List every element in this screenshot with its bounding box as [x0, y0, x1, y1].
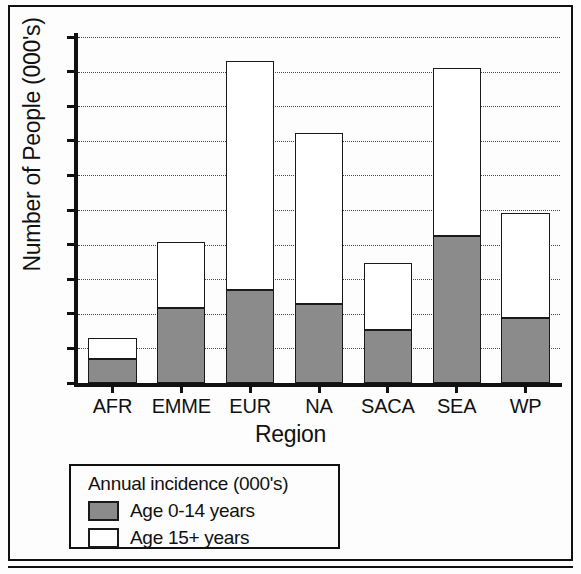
bar-segment-age-15-plus [501, 213, 549, 317]
x-axis-title: Region [0, 421, 581, 448]
bar-segment-age-0-14 [88, 359, 136, 383]
legend-swatch-white-icon [88, 528, 119, 548]
bar-afr [88, 37, 136, 383]
legend-item-age-0-14: Age 0-14 years [88, 499, 338, 524]
y-axis-tick [67, 105, 76, 108]
figure-bottom-rule [8, 566, 573, 568]
bar-na [295, 37, 343, 383]
x-axis-tick-label-afr: AFR [78, 396, 147, 416]
bar-wp [501, 37, 549, 383]
x-axis-tick-label-saca: SACA [353, 396, 422, 416]
figure-container: Number of People (000's) 051015202530354… [0, 0, 581, 574]
bar-saca [364, 37, 412, 383]
x-axis-tick [386, 384, 389, 393]
y-axis-tick [67, 312, 76, 315]
bar-segment-age-0-14 [364, 330, 412, 383]
plot-area [78, 37, 560, 383]
x-axis-tick [524, 384, 527, 393]
bar-segment-age-15-plus [364, 263, 412, 330]
y-axis-tick [67, 209, 76, 212]
x-axis-tick-label-na: NA [285, 396, 354, 416]
bar-segment-age-15-plus [433, 68, 481, 235]
x-axis-tick [111, 384, 114, 393]
x-axis-tick [455, 384, 458, 393]
bar-segment-age-15-plus [226, 61, 274, 290]
bar-segment-age-15-plus [157, 242, 205, 308]
legend-label-age-0-14: Age 0-14 years [130, 500, 255, 522]
bar-segment-age-0-14 [433, 236, 481, 383]
legend-swatch-gray-icon [88, 501, 119, 521]
x-axis-tick-label-eur: EUR [216, 396, 285, 416]
x-axis-tick [249, 384, 252, 393]
x-axis-tick-label-wp: WP [491, 396, 560, 416]
y-axis-tick [67, 139, 76, 142]
y-axis-tick [67, 278, 76, 281]
bar-segment-age-15-plus [295, 133, 343, 304]
legend-title: Annual incidence (000's) [88, 473, 338, 495]
y-axis-title: Number of People (000's) [19, 0, 46, 310]
legend-item-age-15-plus: Age 15+ years [88, 526, 338, 551]
bar-segment-age-0-14 [295, 304, 343, 383]
x-axis-tick [180, 384, 183, 393]
bar-segment-age-15-plus [88, 338, 136, 359]
x-axis-tick [318, 384, 321, 393]
y-axis-tick [67, 36, 76, 39]
legend-label-age-15-plus: Age 15+ years [130, 527, 249, 549]
y-axis-tick [67, 243, 76, 246]
y-axis-tick [67, 70, 76, 73]
bar-segment-age-0-14 [157, 308, 205, 383]
y-axis-tick [67, 174, 76, 177]
bar-eur [226, 37, 274, 383]
bar-sea [433, 37, 481, 383]
chart-legend: Annual incidence (000's) Age 0-14 years … [69, 464, 340, 549]
bar-segment-age-0-14 [501, 318, 549, 383]
x-axis-tick-label-emme: EMME [147, 396, 216, 416]
y-axis-tick [67, 382, 76, 385]
y-axis-tick [67, 347, 76, 350]
bar-emme [157, 37, 205, 383]
bar-segment-age-0-14 [226, 290, 274, 383]
x-axis-tick-label-sea: SEA [422, 396, 491, 416]
